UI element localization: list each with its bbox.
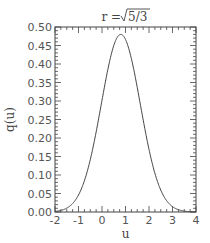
y-tick-label: 0.30 [28,95,53,108]
y-tick-label: 0.45 [28,40,53,53]
x-tick-label: -1 [73,214,84,227]
chart-title: r = 5/3 [101,9,150,24]
x-tick-label: 2 [146,214,153,227]
y-tick-label: 0.05 [28,188,53,201]
y-axis-label: q(u) [3,107,17,132]
y-tick-label: 0.10 [28,169,53,182]
y-tick-label: 0.40 [28,58,53,71]
title-radicand: 5/3 [128,10,147,24]
x-tick-label: 3 [169,214,176,227]
x-tick-label: 1 [122,214,129,227]
y-tick-label: 0.15 [28,151,53,164]
y-tick-label: 0.20 [28,132,53,145]
x-tick-label: 0 [99,214,106,227]
plot-area [55,27,196,212]
title-text: r = [101,10,121,24]
y-tick-label: 0.00 [28,206,53,219]
x-axis: -2-101234 [50,27,200,227]
y-tick-label: 0.35 [28,77,53,90]
y-tick-label: 0.50 [28,21,53,34]
x-axis-label: u [122,227,130,241]
chart: r = 5/3 -2-101234 0.000.050.100.150.200.… [0,0,210,243]
x-tick-label: 4 [193,214,200,227]
y-tick-label: 0.25 [28,114,53,127]
data-line [55,34,196,211]
